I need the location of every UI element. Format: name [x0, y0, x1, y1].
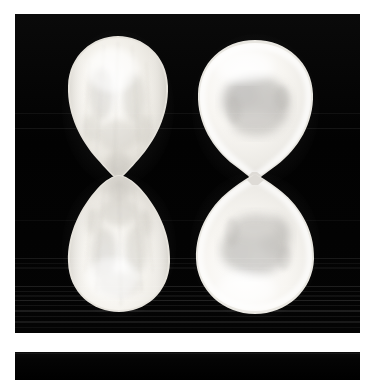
specular-highlight	[214, 50, 274, 82]
specimen-top-right	[198, 40, 313, 180]
specimen-bottom-left	[68, 180, 170, 312]
shell-bottom-right-body	[196, 178, 314, 314]
strip-scan-line	[15, 353, 360, 354]
specimen-top-left	[68, 36, 168, 180]
specimen-bottom-right	[196, 178, 314, 314]
shell-top-left-body	[68, 36, 168, 180]
specular-highlight	[216, 274, 276, 306]
shell-bottom-left-body	[68, 180, 170, 312]
shell-top-right-body	[198, 40, 313, 180]
screenshot-root: Black photographic plate containing four…	[0, 0, 383, 380]
lower-black-strip	[15, 352, 360, 380]
specimen-plate	[15, 14, 360, 333]
